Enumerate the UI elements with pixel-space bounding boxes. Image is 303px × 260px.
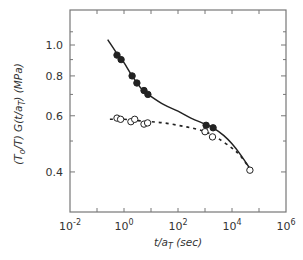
- open-data-point: [132, 116, 138, 122]
- chart: 10-2100102104106 1.00.80.60.4 t/aT (sec)…: [0, 0, 303, 260]
- y-tick-label: 1.0: [46, 39, 64, 52]
- open-data-point: [144, 120, 150, 126]
- y-tick-label: 0.6: [46, 110, 64, 123]
- x-tick-label: 102: [168, 218, 187, 233]
- x-tick-label: 100: [114, 218, 133, 233]
- x-tick-label: 10-2: [59, 218, 81, 233]
- filled-data-point: [145, 91, 151, 97]
- fit-curves: [108, 40, 250, 169]
- filled-data-point: [129, 73, 135, 79]
- x-axis: 10-2100102104106: [59, 10, 296, 233]
- data-points: [114, 52, 253, 174]
- y-tick-label: 0.8: [46, 70, 64, 83]
- y-tick-label: 0.4: [46, 166, 64, 179]
- open-data-point: [247, 167, 253, 173]
- x-tick-label: 106: [276, 218, 295, 233]
- filled-data-point: [210, 125, 216, 131]
- x-axis-title: t/aT (sec): [154, 236, 202, 251]
- filled-data-point: [134, 80, 140, 86]
- solid-fit-curve: [108, 40, 250, 169]
- open-data-point: [117, 116, 123, 122]
- x-tick-label: 104: [222, 218, 241, 233]
- dashed-fit-curve: [110, 119, 250, 168]
- open-data-point: [202, 129, 208, 135]
- y-axis-title: (To/T) G(t/aT) (MPa): [12, 63, 27, 164]
- open-data-point: [209, 134, 215, 140]
- filled-data-point: [118, 56, 124, 62]
- filled-data-point: [203, 122, 209, 128]
